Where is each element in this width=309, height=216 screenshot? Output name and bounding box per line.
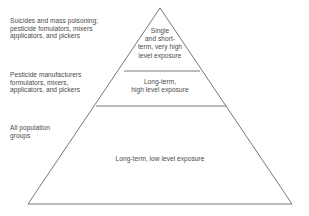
- population-label-top-tier: Suicides and mass poisoning; pesticide f…: [10, 17, 130, 40]
- population-label-base-tier: All population groups: [10, 124, 110, 139]
- exposure-label-top-tier: Single and short- term, very high level …: [124, 27, 196, 60]
- pyramid-diagram: Suicides and mass poisoning; pesticide f…: [0, 0, 309, 216]
- exposure-label-base-tier: Long-term, low level exposure: [85, 155, 235, 163]
- population-label-middle-tier: Pesticide manufacturers formulators, mix…: [10, 71, 122, 94]
- exposure-label-middle-tier: Long-term, high level exposure: [112, 78, 208, 94]
